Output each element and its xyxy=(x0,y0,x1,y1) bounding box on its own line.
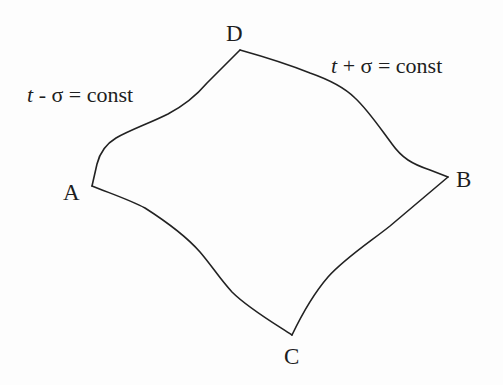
edge-c-a xyxy=(92,186,292,335)
equals-const: = const xyxy=(63,82,133,107)
characteristics-diagram: A B C D t - σ = const t + σ = const xyxy=(0,0,503,385)
curve-label-t-minus-sigma: t - σ = const xyxy=(27,82,133,107)
edge-a-d xyxy=(92,50,240,186)
vertex-label-b: B xyxy=(456,167,471,192)
sigma-symbol: σ xyxy=(51,82,63,107)
diagram-svg: A B C D t - σ = const t + σ = const xyxy=(0,0,503,385)
vertex-label-d: D xyxy=(226,21,243,46)
minus-operator: - xyxy=(33,82,51,107)
vertex-label-a: A xyxy=(63,180,80,205)
equals-const: = const xyxy=(372,53,442,78)
plus-operator: + xyxy=(337,53,360,78)
curve-label-t-plus-sigma: t + σ = const xyxy=(331,53,442,78)
edge-b-c xyxy=(292,177,448,335)
vertex-label-c: C xyxy=(284,344,299,369)
sigma-symbol: σ xyxy=(361,53,373,78)
